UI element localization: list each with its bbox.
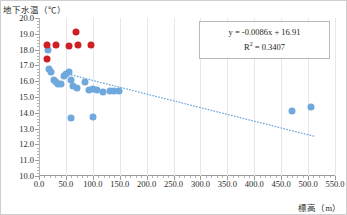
x-tick-minor bbox=[287, 176, 288, 178]
x-tick-minor bbox=[114, 176, 115, 178]
x-tick-minor bbox=[313, 176, 314, 178]
x-tick-minor bbox=[141, 176, 142, 178]
x-tick-label: 500.0 bbox=[299, 179, 318, 189]
x-tick-minor bbox=[276, 176, 277, 178]
x-tick-minor bbox=[44, 176, 45, 178]
data-point bbox=[99, 89, 106, 96]
r-squared-exponent: 2 bbox=[250, 41, 253, 47]
x-tick-label: 150.0 bbox=[110, 179, 129, 189]
x-tick-minor bbox=[265, 176, 266, 178]
r-squared-value: R2 = 0.3407 bbox=[200, 38, 329, 53]
data-point bbox=[73, 84, 80, 91]
data-point bbox=[115, 88, 122, 95]
x-tick-minor bbox=[217, 176, 218, 178]
data-point bbox=[68, 114, 75, 121]
x-tick-minor bbox=[233, 176, 234, 178]
x-tick-minor bbox=[163, 176, 164, 178]
x-tick-minor bbox=[211, 176, 212, 178]
data-point bbox=[82, 78, 89, 85]
x-tick-minor bbox=[157, 176, 158, 178]
x-tick-minor bbox=[77, 176, 78, 178]
y-tick-minor bbox=[37, 173, 39, 174]
y-tick-label: 10.0 bbox=[19, 171, 34, 181]
x-tick-label: 200.0 bbox=[137, 179, 156, 189]
x-tick-label: 100.0 bbox=[83, 179, 102, 189]
y-tick-label: 11.0 bbox=[19, 155, 34, 165]
scatter-chart: 地下水温（℃） 標高（m） 10.011.012.013.014.015.016… bbox=[0, 0, 347, 215]
data-point bbox=[66, 68, 73, 75]
data-point bbox=[88, 41, 95, 48]
x-tick-minor bbox=[61, 176, 62, 178]
x-tick-minor bbox=[303, 176, 304, 178]
x-tick-minor bbox=[50, 176, 51, 178]
x-tick-minor bbox=[238, 176, 239, 178]
x-tick-minor bbox=[179, 176, 180, 178]
x-tick-minor bbox=[130, 176, 131, 178]
x-tick-minor bbox=[270, 176, 271, 178]
data-point bbox=[57, 80, 64, 87]
y-tick-label: 20.0 bbox=[19, 13, 34, 23]
x-tick-label: 550.0 bbox=[325, 179, 344, 189]
x-tick-label: 0.0 bbox=[34, 179, 45, 189]
x-tick-minor bbox=[260, 176, 261, 178]
data-point bbox=[47, 68, 54, 75]
x-tick-minor bbox=[98, 176, 99, 178]
y-tick-label: 14.0 bbox=[19, 108, 34, 118]
x-tick-minor bbox=[125, 176, 126, 178]
x-tick-minor bbox=[324, 176, 325, 178]
x-axis-title: 標高（m） bbox=[298, 201, 341, 213]
y-tick-label: 16.0 bbox=[19, 76, 34, 86]
x-tick-minor bbox=[292, 176, 293, 178]
data-point bbox=[65, 42, 72, 49]
trendline-path bbox=[69, 74, 314, 136]
x-tick-label: 250.0 bbox=[164, 179, 183, 189]
x-tick-minor bbox=[104, 176, 105, 178]
x-tick-minor bbox=[87, 176, 88, 178]
x-tick-minor bbox=[109, 176, 110, 178]
x-tick-label: 450.0 bbox=[272, 179, 291, 189]
x-tick-minor bbox=[168, 176, 169, 178]
regression-equation: y = -0.0086x + 16.91 bbox=[200, 26, 329, 38]
data-point bbox=[44, 41, 51, 48]
x-tick-minor bbox=[319, 176, 320, 178]
data-point bbox=[74, 41, 81, 48]
x-tick-minor bbox=[222, 176, 223, 178]
y-tick-minor bbox=[37, 170, 39, 171]
y-tick-label: 13.0 bbox=[19, 124, 34, 134]
r-squared-number: = 0.3407 bbox=[255, 42, 285, 52]
y-axis-title: 地下水温（℃） bbox=[3, 3, 66, 15]
data-point bbox=[72, 29, 79, 36]
x-tick-minor bbox=[249, 176, 250, 178]
y-tick-label: 12.0 bbox=[19, 139, 34, 149]
data-point bbox=[288, 108, 295, 115]
x-tick-minor bbox=[244, 176, 245, 178]
x-tick-minor bbox=[184, 176, 185, 178]
x-tick-label: 300.0 bbox=[191, 179, 210, 189]
x-tick-label: 400.0 bbox=[245, 179, 264, 189]
x-tick-minor bbox=[82, 176, 83, 178]
data-point bbox=[53, 41, 60, 48]
data-point bbox=[89, 113, 96, 120]
x-tick-minor bbox=[297, 176, 298, 178]
y-tick-label: 17.0 bbox=[19, 60, 34, 70]
x-tick-minor bbox=[206, 176, 207, 178]
x-tick-minor bbox=[195, 176, 196, 178]
data-point bbox=[307, 104, 314, 111]
y-tick-label: 19.0 bbox=[19, 29, 34, 39]
data-point bbox=[44, 56, 51, 63]
x-tick-minor bbox=[136, 176, 137, 178]
x-tick-label: 350.0 bbox=[218, 179, 237, 189]
x-tick-minor bbox=[190, 176, 191, 178]
x-tick-label: 50.0 bbox=[58, 179, 73, 189]
regression-equation-box: y = -0.0086x + 16.91 R2 = 0.3407 bbox=[199, 21, 330, 59]
y-tick-label: 18.0 bbox=[19, 45, 34, 55]
x-tick-minor bbox=[330, 176, 331, 178]
y-tick-label: 15.0 bbox=[19, 92, 34, 102]
x-tick-minor bbox=[55, 176, 56, 178]
x-tick-minor bbox=[152, 176, 153, 178]
x-tick-minor bbox=[71, 176, 72, 178]
